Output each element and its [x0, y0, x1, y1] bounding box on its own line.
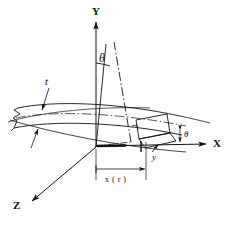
- theta-minor-label: θ: [184, 130, 188, 139]
- x-axis-label: X: [213, 138, 221, 149]
- thickness-leader-bottom: [31, 129, 38, 148]
- plate-back-top-curve: [8, 108, 150, 122]
- theta-major-label: θ: [99, 52, 105, 64]
- element-face-upper: [136, 114, 170, 139]
- x-radial-dimension-label: x ( r ): [105, 176, 127, 184]
- thickness-label: t: [45, 76, 48, 87]
- plate-top-surface-extension: [180, 116, 210, 123]
- z-axis-line: [32, 147, 96, 201]
- y-axis-label: Y: [92, 6, 100, 17]
- z-axis-label: Z: [13, 200, 20, 211]
- differential-element: [132, 114, 176, 152]
- radial-centerline-dashdot: [114, 42, 131, 142]
- thickness-leader-top: [42, 88, 49, 110]
- local-y-label: y: [152, 153, 156, 162]
- plate-left-edge: [11, 128, 14, 131]
- thickness-leaders: [31, 88, 49, 148]
- diagram-canvas: [0, 0, 230, 225]
- figure-container: Y X Z θ θ t y x ( r ): [0, 0, 230, 225]
